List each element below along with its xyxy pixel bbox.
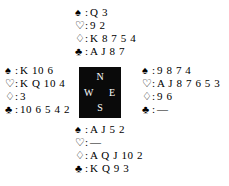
heart-icon: ♡ (75, 136, 85, 149)
compass-south-label: S (97, 103, 103, 113)
compass-north-label: N (96, 72, 103, 82)
hand-east-diamonds: 9 6 (157, 90, 173, 103)
diamond-icon: ♢ (75, 149, 85, 162)
bridge-deal-diagram: ♠ : Q 3 ♡ : 9 2 ♢ : K 8 7 5 4 ♣ : A J 8 … (0, 0, 229, 186)
hand-south-clubs: K Q 9 3 (90, 162, 129, 175)
heart-icon: ♡ (75, 19, 85, 32)
hand-north-diamonds: K 8 7 5 4 (90, 32, 136, 45)
spade-icon: ♠ (75, 123, 85, 136)
hand-south: ♠ : A J 5 2 ♡ : — ♢ : A Q J 10 2 ♣ : K Q… (75, 123, 143, 175)
hand-north-spades-row: ♠ : Q 3 (75, 6, 136, 19)
hand-south-hearts-row: ♡ : — (75, 136, 143, 149)
hand-south-clubs-row: ♣ : K Q 9 3 (75, 162, 143, 175)
diamond-icon: ♢ (75, 32, 85, 45)
spade-icon: ♠ (75, 6, 85, 19)
compass-west-label: W (84, 88, 93, 98)
hand-west-spades: K 10 6 (20, 64, 54, 77)
diamond-icon: ♢ (142, 90, 152, 103)
heart-icon: ♡ (5, 77, 15, 90)
diamond-icon: ♢ (5, 90, 15, 103)
hand-west-hearts: K Q 10 4 (20, 77, 65, 90)
hand-south-spades-row: ♠ : A J 5 2 (75, 123, 143, 136)
hand-west-clubs: 10 6 5 4 2 (20, 103, 70, 116)
hand-west-spades-row: ♠ : K 10 6 (5, 64, 70, 77)
hand-west-diamonds: 3 (20, 90, 26, 103)
hand-south-spades: A J 5 2 (90, 123, 125, 136)
spade-icon: ♠ (142, 64, 152, 77)
hand-north-hearts: 9 2 (90, 19, 106, 32)
compass-box: N W E S (79, 67, 121, 118)
hand-north-clubs: A J 8 7 (90, 45, 125, 58)
club-icon: ♣ (142, 103, 152, 116)
hand-north-diamonds-row: ♢ : K 8 7 5 4 (75, 32, 136, 45)
heart-icon: ♡ (142, 77, 152, 90)
hand-west-clubs-row: ♣ : 10 6 5 4 2 (5, 103, 70, 116)
spade-icon: ♠ (5, 64, 15, 77)
hand-north-spades: Q 3 (90, 6, 108, 19)
club-icon: ♣ (75, 45, 85, 58)
hand-east-clubs-row: ♣ : — (142, 103, 220, 116)
hand-east-hearts: A J 8 7 6 5 3 (157, 77, 220, 90)
hand-south-diamonds: A Q J 10 2 (90, 149, 143, 162)
hand-north: ♠ : Q 3 ♡ : 9 2 ♢ : K 8 7 5 4 ♣ : A J 8 … (75, 6, 136, 58)
hand-east-hearts-row: ♡ : A J 8 7 6 5 3 (142, 77, 220, 90)
hand-north-clubs-row: ♣ : A J 8 7 (75, 45, 136, 58)
hand-east-diamonds-row: ♢ : 9 6 (142, 90, 220, 103)
hand-west: ♠ : K 10 6 ♡ : K Q 10 4 ♢ : 3 ♣ : 10 6 5… (5, 64, 70, 116)
club-icon: ♣ (75, 162, 85, 175)
compass-east-label: E (109, 88, 115, 98)
hand-west-diamonds-row: ♢ : 3 (5, 90, 70, 103)
hand-east-clubs: — (157, 103, 169, 116)
hand-west-hearts-row: ♡ : K Q 10 4 (5, 77, 70, 90)
hand-south-hearts: — (90, 136, 102, 149)
hand-east: ♠ : 9 8 7 4 ♡ : A J 8 7 6 5 3 ♢ : 9 6 ♣ … (142, 64, 220, 116)
hand-south-diamonds-row: ♢ : A Q J 10 2 (75, 149, 143, 162)
hand-north-hearts-row: ♡ : 9 2 (75, 19, 136, 32)
hand-east-spades-row: ♠ : 9 8 7 4 (142, 64, 220, 77)
hand-east-spades: 9 8 7 4 (157, 64, 191, 77)
club-icon: ♣ (5, 103, 15, 116)
